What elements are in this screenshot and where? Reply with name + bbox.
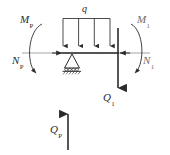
moment-arc-left xyxy=(30,24,42,72)
label-normal-left: NP xyxy=(12,55,23,69)
statics-free-body-diagram: q MP M1 NP N1 Q1 QP xyxy=(0,0,170,155)
label-moment-left: MP xyxy=(20,14,33,28)
label-normal-right: N1 xyxy=(143,55,154,69)
label-moment-right: M1 xyxy=(137,14,150,28)
label-shear-bottom: QP xyxy=(50,124,62,138)
label-shear-right: Q1 xyxy=(103,92,114,106)
label-distributed-load: q xyxy=(82,4,87,16)
pin-support xyxy=(63,54,82,74)
distributed-load-group xyxy=(63,19,110,47)
moment-arc-right xyxy=(131,24,142,72)
